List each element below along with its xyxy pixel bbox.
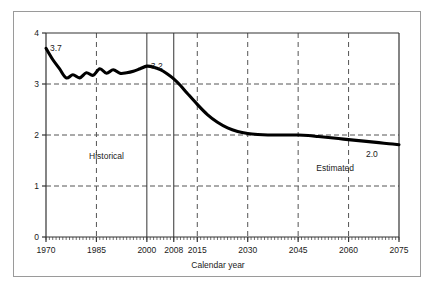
x-tick-label: 2015 (188, 245, 207, 255)
y-tick-label: 1 (34, 181, 39, 191)
y-tick-label: 3 (34, 79, 39, 89)
x-tick-label: 2008 (164, 245, 183, 255)
figure-frame: 197019852000200820152030204520602075 012… (13, 11, 421, 277)
fertility-rate-line-chart: 197019852000200820152030204520602075 012… (14, 12, 422, 278)
estimated-region-label: Estimated (316, 163, 354, 173)
year-2000-value-label: 3.2 (151, 61, 163, 71)
start-value-label: 3.7 (50, 43, 62, 53)
x-tick-label: 2045 (289, 245, 308, 255)
tick-mark-layer (42, 33, 399, 242)
historical-region-label: Historical (89, 151, 124, 161)
x-tick-label: 1970 (37, 245, 56, 255)
x-axis-title: Calendar year (191, 260, 245, 270)
data-series-layer (46, 48, 399, 144)
y-tick-label: 4 (34, 28, 39, 38)
x-tick-label: 2060 (339, 245, 358, 255)
y-tick-label-layer: 01234 (34, 28, 39, 242)
x-tick-label: 2000 (137, 245, 156, 255)
x-tick-label-layer: 197019852000200820152030204520602075 (37, 245, 409, 255)
end-value-label: 2.0 (366, 149, 378, 159)
y-tick-label: 0 (34, 232, 39, 242)
screenshot-root: 197019852000200820152030204520602075 012… (0, 0, 435, 288)
data-line-total-fertility-rate (46, 48, 399, 144)
y-tick-label: 2 (34, 130, 39, 140)
x-tick-label: 1985 (87, 245, 106, 255)
x-tick-label: 2075 (390, 245, 409, 255)
annotation-layer: 3.73.22.0HistoricalEstimated (50, 43, 378, 172)
x-tick-label: 2030 (238, 245, 257, 255)
grid-layer (46, 33, 399, 237)
